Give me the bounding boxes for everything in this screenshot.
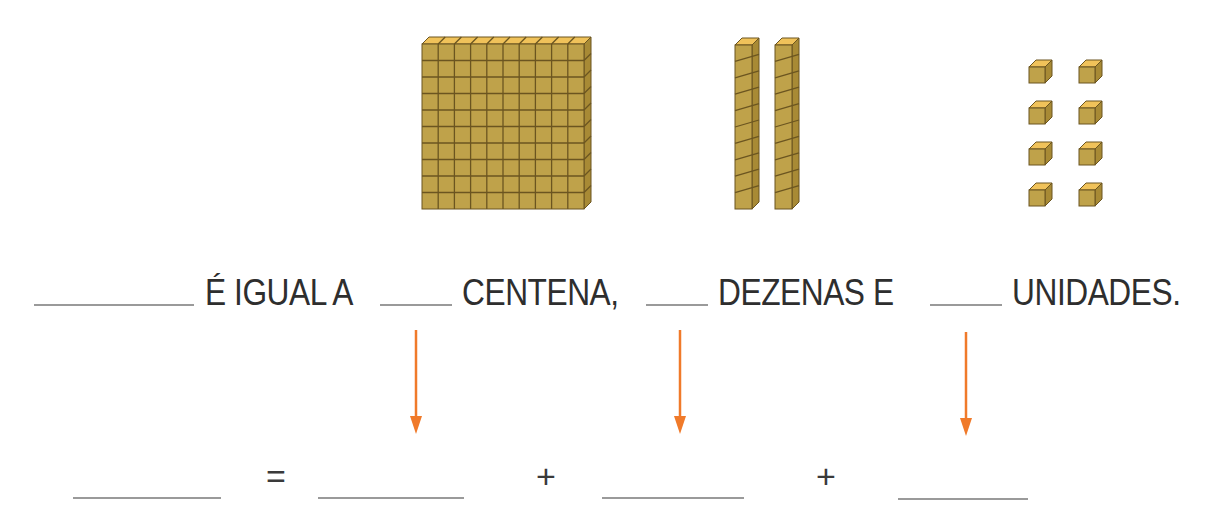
hundreds-block: [418, 36, 593, 212]
arrow-down-icon: [670, 328, 690, 438]
text-e-igual-a: É IGUAL A: [205, 270, 353, 316]
unit-cubes: [1026, 58, 1106, 213]
text-unidades: UNIDADES.: [1012, 270, 1181, 316]
blank-total-number[interactable]: [34, 304, 194, 306]
blank-centena-count[interactable]: [380, 304, 452, 306]
blank-dezenas-count[interactable]: [646, 304, 708, 306]
blank-unidades-count[interactable]: [930, 304, 1002, 306]
plus-sign: +: [536, 459, 556, 493]
fill-in-sentence: É IGUAL A CENTENA, DEZENAS E UNIDADES.: [0, 270, 1224, 330]
equals-sign: =: [266, 459, 286, 493]
blank-units-value[interactable]: [898, 498, 1028, 500]
plus-sign: +: [816, 459, 836, 493]
blank-tens-value[interactable]: [602, 497, 744, 499]
blank-total[interactable]: [73, 497, 221, 499]
arrow-down-icon: [956, 330, 976, 440]
text-centena: CENTENA,: [462, 270, 619, 316]
blank-hundreds-value[interactable]: [318, 497, 464, 499]
tens-rod: [733, 37, 763, 212]
arrow-down-icon: [406, 328, 426, 438]
tens-rod: [773, 37, 803, 212]
text-dezenas-e: DEZENAS E: [718, 270, 894, 316]
